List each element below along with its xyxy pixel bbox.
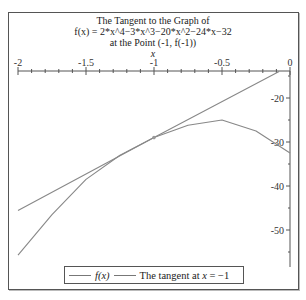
x-tick-label: -0.5 xyxy=(214,57,230,68)
legend: f(x) The tangent at x = −1 xyxy=(64,266,244,284)
y-tick-label: -40 xyxy=(271,181,284,192)
legend-tangent-prefix: The tangent at xyxy=(140,270,203,281)
tangent-line xyxy=(18,72,279,211)
fx-curve xyxy=(18,120,290,255)
chart-canvas: -2-1.5-1-0.50-20-30-40-50 xyxy=(0,0,306,300)
tangent-point-marker xyxy=(152,136,156,140)
legend-line-tangent xyxy=(114,275,136,276)
x-tick-label: -2 xyxy=(14,57,22,68)
x-tick-label: -1 xyxy=(150,57,158,68)
y-tick-label: -20 xyxy=(271,93,284,104)
legend-tangent-suffix: = −1 xyxy=(207,270,229,281)
legend-label-fx: f(x) xyxy=(95,270,110,281)
legend-label-tangent: The tangent at x = −1 xyxy=(140,270,230,281)
legend-line-fx xyxy=(69,275,91,276)
y-tick-label: -50 xyxy=(271,225,284,236)
x-tick-label: 0 xyxy=(288,57,293,68)
x-tick-label: -1.5 xyxy=(78,57,94,68)
